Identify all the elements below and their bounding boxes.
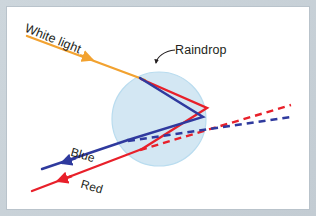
- raindrop-pointer-line: [156, 50, 175, 63]
- figure-root: White light Raindrop Blue Red: [0, 0, 316, 216]
- label-raindrop: Raindrop: [175, 43, 227, 57]
- ray-red-exit-arrowhead: [58, 176, 72, 181]
